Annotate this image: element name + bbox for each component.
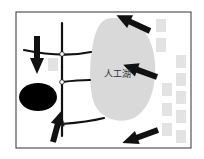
- building: [176, 91, 186, 104]
- building: [176, 73, 186, 86]
- building: [162, 103, 172, 116]
- road-node: [60, 52, 65, 57]
- building: [176, 55, 186, 68]
- building: [48, 58, 58, 71]
- site-plan-diagram: [0, 0, 204, 159]
- road-node: [60, 80, 65, 85]
- building: [156, 19, 166, 32]
- black-pond: [19, 83, 57, 111]
- building: [176, 110, 186, 123]
- building: [176, 130, 186, 143]
- lake-label: 人工湖: [104, 67, 131, 80]
- building: [162, 83, 172, 96]
- building: [162, 123, 172, 136]
- building: [156, 38, 166, 52]
